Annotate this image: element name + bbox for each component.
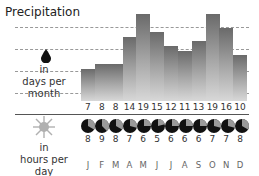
bar-O: [206, 14, 220, 101]
sun-hours-value: 5: [150, 134, 164, 144]
sun-hours-value: 6: [178, 134, 192, 144]
rain-days-value: 10: [233, 102, 247, 114]
sunshine-pie-icon: [179, 119, 193, 135]
rain-days-value: 7: [81, 102, 95, 114]
sunshine-pie-icon: [137, 119, 151, 135]
bar-J: [150, 32, 164, 101]
sunshine-pie-icon: [207, 119, 221, 135]
precipitation-bars: [81, 0, 247, 102]
rain-days-value: 13: [192, 102, 206, 114]
sunshine-pie-icon: [123, 119, 137, 135]
sunshine-pie-icon: [221, 119, 235, 135]
month-label: M: [109, 160, 123, 170]
sunshine-pie-icon: [81, 119, 95, 135]
sun-unit-label: in hours per day: [12, 142, 76, 176]
month-label: A: [122, 160, 136, 170]
rain-days-value: 8: [95, 102, 109, 114]
chart-title: Precipitation: [5, 5, 80, 19]
sun-hours-value: 6: [192, 134, 206, 144]
month-label: D: [233, 160, 247, 170]
sun-hours-value: 7: [122, 134, 136, 144]
month-label: A: [178, 160, 192, 170]
month-label: M: [136, 160, 150, 170]
sun-hours-value: 7: [205, 134, 219, 144]
bar-N: [219, 28, 233, 101]
raindrop-icon: [40, 49, 52, 63]
month-label: J: [150, 160, 164, 170]
bar-D: [233, 55, 247, 101]
sun-hours-value: 8: [233, 134, 247, 144]
rain-days-value: 8: [109, 102, 123, 114]
rain-days-value: 16: [219, 102, 233, 114]
rain-days-value: 11: [178, 102, 192, 114]
sunshine-pie-icon: [151, 119, 165, 135]
bar-F: [95, 64, 109, 101]
month-label: N: [219, 160, 233, 170]
bar-M: [136, 14, 150, 101]
month-label: J: [164, 160, 178, 170]
month-label: F: [95, 160, 109, 170]
sun-hours-value: 8: [81, 134, 95, 144]
divider: [15, 114, 249, 115]
month-label: O: [205, 160, 219, 170]
sunshine-pies: [81, 119, 247, 135]
month-label: J: [81, 160, 95, 170]
sun-hours-value: 6: [136, 134, 150, 144]
bar-S: [192, 41, 206, 101]
sunshine-pie-icon: [95, 119, 109, 135]
rain-days-value: 14: [122, 102, 136, 114]
sunshine-pie-icon: [235, 119, 249, 135]
bar-A: [123, 37, 137, 101]
month-axis: JFMAMJJASOND: [81, 160, 247, 170]
bar-A: [178, 51, 192, 101]
sun-hours-values: 898765666778: [81, 134, 247, 144]
sunshine-pie-icon: [165, 119, 179, 135]
sun-hours-value: 8: [109, 134, 123, 144]
sun-hours-value: 9: [95, 134, 109, 144]
sunshine-pie-icon: [193, 119, 207, 135]
rain-days-value: 19: [136, 102, 150, 114]
bar-M: [109, 64, 123, 101]
sunshine-pie-icon: [109, 119, 123, 135]
sun-hours-value: 6: [164, 134, 178, 144]
rain-days-value: 12: [164, 102, 178, 114]
month-label: S: [192, 160, 206, 170]
bar-J: [164, 46, 178, 101]
precip-unit-label: in days per month: [10, 64, 78, 100]
rain-days-value: 19: [205, 102, 219, 114]
rain-days-value: 15: [150, 102, 164, 114]
sun-icon: [33, 116, 55, 138]
rain-days-values: 788141915121113191610: [81, 102, 247, 114]
bar-J: [81, 69, 95, 101]
sun-hours-value: 7: [219, 134, 233, 144]
